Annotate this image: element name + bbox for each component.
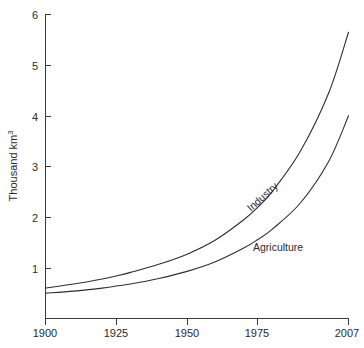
x-tick-label-2007: 2007 <box>335 327 359 339</box>
line-chart: 6 5 4 3 2 1 1900 1925 1950 1975 2007 Tho… <box>0 0 364 348</box>
series-label-agriculture-text: Agriculture <box>253 241 303 253</box>
y-tick-label-5: 5 <box>32 60 38 72</box>
x-tick-label-1925: 1925 <box>104 327 128 339</box>
y-tick-label-4: 4 <box>32 111 38 123</box>
y-axis-title: Thousand km3 <box>6 131 19 202</box>
y-axis-title-superscript: 3 <box>6 131 15 135</box>
x-tick-label-1900: 1900 <box>33 327 57 339</box>
y-tick-label-6: 6 <box>32 9 38 21</box>
y-tick-label-1: 1 <box>32 263 38 275</box>
x-tick-label-1950: 1950 <box>175 327 199 339</box>
y-axis-title-main: Thousand km <box>7 135 19 202</box>
series-label-agriculture: Agriculture <box>253 241 303 253</box>
y-tick-label-2: 2 <box>32 212 38 224</box>
y-tick-label-3: 3 <box>32 161 38 173</box>
y-axis-title-text: Thousand km3 <box>6 131 19 202</box>
x-tick-label-1975: 1975 <box>245 327 269 339</box>
chart-background <box>0 0 364 348</box>
